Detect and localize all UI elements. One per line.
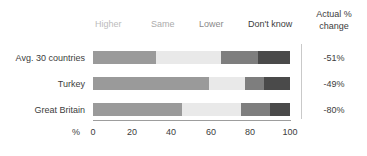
category-label-great-britain: Great Britain [0,104,85,116]
x-tick-60: 60 [198,126,224,138]
bar-segment-same [156,51,221,64]
right-panel-header-line2: change [303,20,365,32]
stacked-bar-chart: Higher Same Lower Don't know Avg. 30 cou… [0,0,367,156]
actual-change-great-britain: -80% [303,104,365,116]
bar-segment-lower [221,51,258,64]
right-panel-header: Actual % change [303,8,365,32]
legend-item-higher: Higher [95,18,122,30]
actual-change-avg-30-countries: -51% [303,52,365,64]
bar-row-great-britain [93,103,290,116]
right-panel-header-line1: Actual % [303,8,365,20]
bar-segment-lower [245,77,265,90]
chart-legend: Higher Same Lower Don't know [93,18,293,34]
bar-segment-don-t-know [264,77,290,90]
x-tick-80: 80 [237,126,263,138]
x-tick-20: 20 [119,126,145,138]
bar-segment-lower [241,103,271,116]
legend-item-same: Same [151,18,175,30]
bar-segment-higher [93,51,156,64]
category-label-avg-30-countries: Avg. 30 countries [0,52,85,64]
x-tick-0: 0 [80,126,106,138]
bar-segment-higher [93,103,182,116]
x-tick-40: 40 [158,126,184,138]
bar-segment-higher [93,77,209,90]
bar-segment-don-t-know [270,103,290,116]
x-tick-100: 100 [277,126,303,138]
bar-row-avg-30-countries [93,51,290,64]
bar-segment-don-t-know [258,51,290,64]
right-panel-divider [301,44,302,119]
category-label-turkey: Turkey [0,78,85,90]
x-axis-line [93,120,291,121]
bar-row-turkey [93,77,290,90]
bar-segment-same [182,103,241,116]
actual-change-turkey: -49% [303,78,365,90]
legend-item-dont-know: Don't know [248,18,292,30]
x-axis-unit-label: % [72,126,80,138]
legend-item-lower: Lower [199,18,224,30]
bar-segment-same [209,77,244,90]
